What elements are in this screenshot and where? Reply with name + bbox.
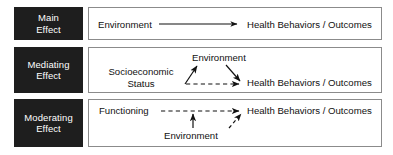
- node-environment-mediator: Environment: [192, 52, 246, 63]
- row-label-line-1: Moderating: [24, 112, 73, 124]
- row-label-mediating-effect: Mediating Effect: [14, 47, 83, 93]
- node-outcome-mediating: Health Behaviors / Outcomes: [247, 77, 372, 88]
- node-environment-main: Environment: [98, 19, 152, 30]
- panel-moderating-effect: Functioning Health Behaviors / Outcomes …: [88, 99, 382, 147]
- node-outcome-main: Health Behaviors / Outcomes: [247, 19, 372, 30]
- node-functioning: Functioning: [99, 105, 149, 116]
- node-environment-moderator: Environment: [164, 130, 218, 141]
- effects-diagram-figure: Main Effect Environment Health Behaviors…: [0, 0, 393, 155]
- row-label-line-1: Main: [38, 12, 59, 24]
- row-label-line-1: Mediating: [27, 59, 69, 71]
- node-socioeconomic-status-line-2: Status: [127, 78, 154, 89]
- row-label-line-2: Effect: [36, 24, 61, 36]
- panel-mediating-effect: Environment Socioeconomic Status Health …: [88, 47, 382, 93]
- row-label-line-2: Effect: [36, 123, 61, 135]
- row-label-moderating-effect: Moderating Effect: [14, 99, 83, 147]
- row-label-main-effect: Main Effect: [14, 7, 83, 40]
- panel-main-effect: Environment Health Behaviors / Outcomes: [88, 7, 382, 40]
- node-socioeconomic-status-line-1: Socioeconomic: [108, 66, 173, 77]
- node-socioeconomic-status: Socioeconomic Status: [95, 66, 187, 89]
- arrow-environment-to-outcome: [226, 65, 240, 81]
- row-label-line-2: Effect: [36, 70, 61, 82]
- arrow-environment-to-outcome-dashed: [229, 114, 241, 128]
- node-outcome-moderating: Health Behaviors / Outcomes: [247, 105, 372, 116]
